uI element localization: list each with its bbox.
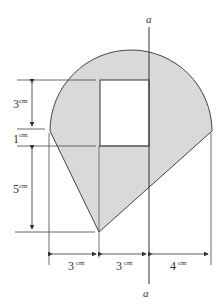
dim-bottom-right: 4cm [170, 259, 187, 273]
dim-left-bottom: 5cm [13, 182, 28, 196]
dim-left-top: 3cm [13, 97, 28, 111]
axis-label-bottom: a [143, 287, 149, 299]
dim-left-mid: 1cm [13, 131, 28, 146]
dim-bottom-left: 3cm [68, 259, 85, 273]
rectangular-hole [100, 80, 149, 146]
cross-section-diagram: a a 3cm 1cm 5cm 3cm 3cm 4cm [0, 0, 223, 308]
dim-bottom-mid: 3cm [116, 259, 133, 273]
axis-label-top: a [146, 13, 152, 25]
